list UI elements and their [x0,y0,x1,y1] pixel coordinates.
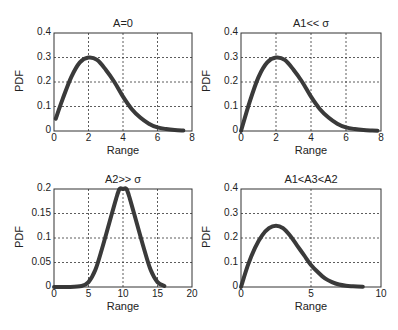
x-tick-label: 0 [231,288,251,299]
subplot-title: A1<A3<A2 [241,173,381,185]
subplot-title: A=0 [54,17,192,29]
x-tick-label: 2 [79,132,99,143]
y-tick-label: 0.2 [224,231,238,242]
y-tick-label: 0.3 [37,51,51,62]
x-tick-label: 5 [79,288,99,299]
x-tick-label: 6 [148,132,168,143]
y-axis-label: PDF [200,66,212,96]
subplot-title: A2>> σ [54,173,192,185]
x-tick-label: 20 [182,288,202,299]
subplot-axes [241,189,381,287]
y-tick-label: 0.15 [32,207,51,218]
x-tick-label: 0 [231,132,251,143]
x-tick-label: 6 [336,132,356,143]
pdf-curve [56,57,184,130]
x-tick-label: 10 [113,288,133,299]
y-tick-label: 0.1 [224,100,238,111]
x-axis-label: Range [54,300,192,312]
x-tick-label: 2 [266,132,286,143]
y-axis-label: PDF [13,66,25,96]
subplot-axes [54,33,192,131]
y-tick-label: 0.2 [37,75,51,86]
x-tick-label: 0 [44,288,64,299]
y-tick-label: 0.4 [224,26,238,37]
x-axis-label: Range [54,144,192,156]
x-tick-label: 0 [44,132,64,143]
x-tick-label: 5 [301,288,321,299]
x-tick-label: 8 [182,132,202,143]
x-tick-label: 4 [113,132,133,143]
x-axis-label: Range [241,300,381,312]
y-tick-label: 0.2 [224,75,238,86]
pdf-curve [241,57,378,131]
y-tick-label: 0.3 [224,51,238,62]
y-tick-label: 0.2 [37,182,51,193]
y-axis-label: PDF [200,222,212,252]
x-axis-label: Range [241,144,381,156]
y-tick-label: 0.1 [224,256,238,267]
y-tick-label: 0.4 [224,182,238,193]
subplot-axes [54,189,192,287]
subplot-axes [241,33,381,131]
x-tick-label: 4 [301,132,321,143]
y-tick-label: 0.1 [37,100,51,111]
x-tick-label: 10 [371,288,391,299]
y-axis-label: PDF [13,222,25,252]
y-tick-label: 0.1 [37,231,51,242]
y-tick-label: 0.05 [32,256,51,267]
subplot-title: A1<< σ [241,17,381,29]
y-tick-label: 0.4 [37,26,51,37]
y-tick-label: 0.3 [224,207,238,218]
x-tick-label: 15 [148,288,168,299]
pdf-curve [241,226,363,287]
x-tick-label: 8 [371,132,391,143]
